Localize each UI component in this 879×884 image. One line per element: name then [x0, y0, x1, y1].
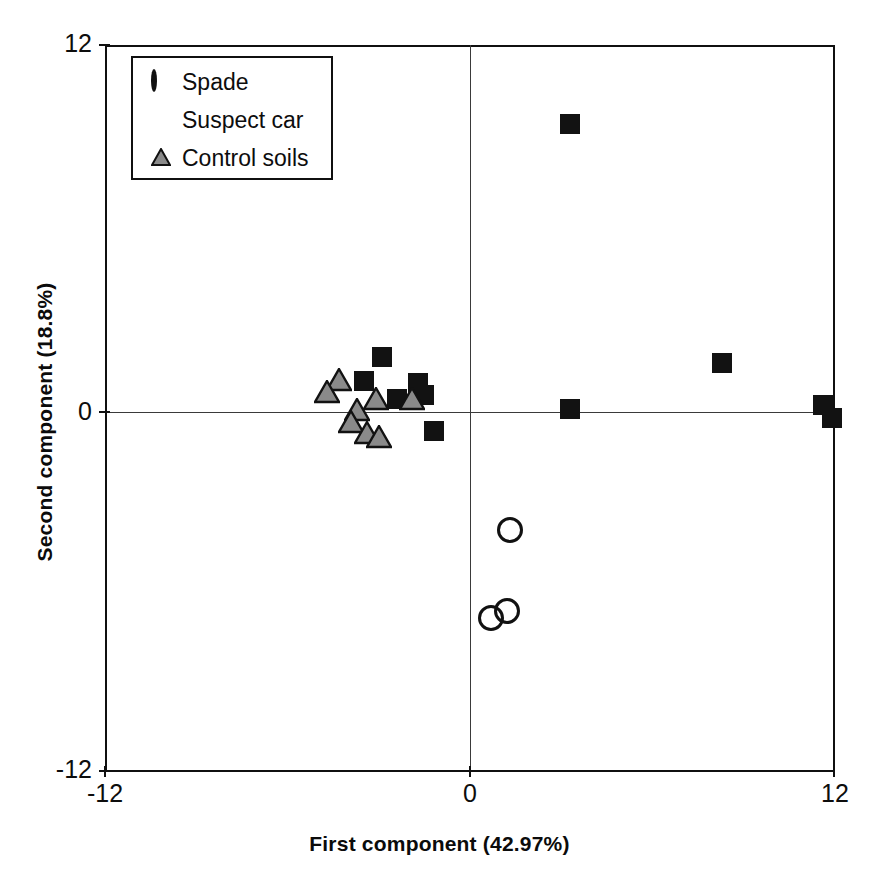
triangle-gray-icon [151, 148, 171, 168]
data-point-suspect-car [560, 114, 580, 134]
x-tick-min [104, 766, 106, 777]
x-tick-max [833, 766, 835, 777]
x-axis-tick-label-max: 12 [794, 781, 876, 806]
data-point-control-soil [366, 425, 392, 449]
data-point-spade [497, 517, 523, 543]
data-point-suspect-car [712, 353, 732, 373]
data-point-suspect-car [560, 399, 580, 419]
pca-scatter-figure: 12 0 -12 -12 0 12 First component (42.97… [0, 0, 879, 884]
legend-item-label: Suspect car [182, 109, 303, 132]
legend-item-suspect-car: Suspect car [151, 106, 303, 134]
x-axis-tick-label-mid: 0 [429, 781, 511, 806]
y-tick-max [99, 44, 110, 46]
data-point-spade [494, 598, 520, 624]
y-tick-mid [99, 411, 110, 413]
data-point-suspect-car [424, 421, 444, 441]
x-axis-tick-label-min: -12 [64, 781, 146, 806]
square-filled-icon [151, 110, 171, 130]
data-point-suspect-car [372, 347, 392, 367]
x-tick-mid [469, 766, 471, 777]
legend-item-label: Control soils [182, 147, 309, 170]
legend-item-control-soils: Control soils [151, 144, 309, 172]
legend-item-spade: Spade [151, 68, 249, 96]
y-zero-axis-line [470, 45, 471, 772]
legend-item-label: Spade [182, 71, 249, 94]
legend-box: Spade Suspect car Control soils [131, 56, 333, 180]
y-axis-tick-label-min: -12 [25, 757, 92, 782]
circle-open-icon [151, 72, 171, 92]
y-axis-title: Second component (18.8%) [33, 222, 57, 622]
data-point-control-soil [399, 387, 425, 411]
x-axis-title: First component (42.97%) [0, 832, 879, 856]
data-point-control-soil [314, 380, 340, 404]
data-point-suspect-car [822, 408, 842, 428]
y-axis-tick-label-max: 12 [36, 31, 92, 56]
